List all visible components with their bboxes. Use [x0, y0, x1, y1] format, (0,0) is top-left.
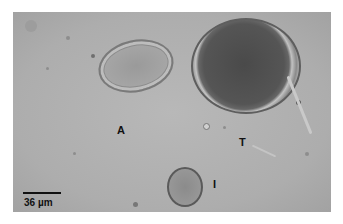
egg-a [93, 33, 178, 100]
debris-particle [203, 123, 210, 130]
fiber [252, 145, 276, 158]
debris-particle [66, 36, 70, 40]
egg-i [167, 167, 203, 207]
scale-bar [23, 192, 61, 194]
scale-bar-label: 36 µm [24, 197, 53, 208]
debris-particle [223, 126, 226, 129]
debris-particle [25, 20, 37, 32]
label-a: A [117, 124, 125, 136]
debris-particle [91, 54, 95, 58]
label-i: I [213, 178, 216, 190]
fiber [286, 76, 312, 135]
debris-particle [305, 152, 309, 156]
debris-particle [46, 67, 49, 70]
micrograph: A T I 36 µm [13, 12, 331, 212]
debris-particle [73, 152, 76, 155]
egg-t [191, 18, 301, 114]
debris-particle [133, 202, 138, 207]
label-t: T [239, 136, 246, 148]
